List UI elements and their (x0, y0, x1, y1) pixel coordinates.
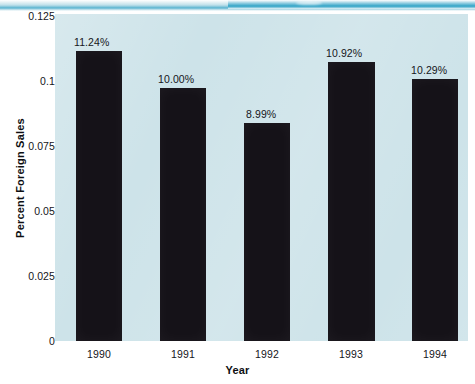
x-tick-1994: 1994 (400, 348, 470, 360)
bar-1991 (160, 88, 206, 341)
y-tick-3: 0.05 (3, 205, 55, 217)
x-tick-1992: 1992 (232, 348, 302, 360)
y-tick-4: 0.025 (3, 270, 55, 282)
y-tick-0: 0.125 (3, 10, 55, 22)
scan-artifact (296, 1, 322, 5)
value-label-1992: 8.99% (246, 108, 276, 120)
value-label-1993: 10.92% (326, 47, 362, 59)
y-axis-title: Percent Foreign Sales (14, 88, 26, 268)
y-tick-1: 0.1 (3, 75, 55, 87)
x-tick-1993: 1993 (316, 348, 386, 360)
x-tick-1990: 1990 (64, 348, 134, 360)
bar-1990 (76, 51, 122, 341)
value-label-1991: 10.00% (158, 73, 194, 85)
bar-1992 (244, 123, 290, 341)
y-tick-2: 0.075 (3, 140, 55, 152)
x-tick-1991: 1991 (148, 348, 218, 360)
bar-1994 (412, 79, 458, 341)
value-label-1990: 11.24% (74, 36, 109, 48)
y-axis: 0.125 0.1 0.075 0.05 0.025 0 Percent For… (0, 0, 55, 384)
x-axis-title: Year (0, 364, 475, 376)
y-tick-5: 0 (3, 335, 55, 347)
chart-page: 0.125 0.1 0.075 0.05 0.025 0 Percent For… (0, 0, 475, 384)
page-top-accent-band-right (228, 0, 475, 9)
bar-1993 (328, 62, 375, 341)
value-label-1994: 10.29% (411, 64, 447, 76)
